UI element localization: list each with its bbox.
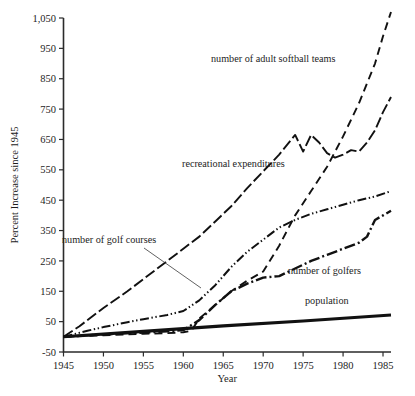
x-tick-label: 1955 (133, 360, 154, 371)
x-tick-label: 1970 (253, 360, 274, 371)
x-tick-label: 1965 (213, 360, 234, 371)
series-annotation-label: recreational expenditures (182, 158, 285, 169)
y-tick-label: 50 (46, 316, 57, 327)
x-tick-label: 1985 (373, 360, 394, 371)
series-line-population (64, 315, 392, 337)
y-tick-label: 1,050 (32, 13, 56, 24)
series-annotation-label: population (305, 295, 349, 306)
y-tick-label: -50 (42, 347, 56, 358)
y-tick-label: 650 (40, 134, 56, 145)
y-tick-label: 550 (40, 164, 56, 175)
y-tick-label: 350 (40, 225, 56, 236)
y-tick-label: 750 (40, 104, 56, 115)
series-annotation-label: number of golf courses (62, 234, 156, 245)
x-axis-ticks: 194519501955196019651970197519801985 (53, 352, 394, 371)
y-tick-label: 450 (40, 195, 56, 206)
y-tick-label: 950 (40, 43, 56, 54)
y-tick-label: 150 (40, 286, 56, 297)
series-annotation-label: number of adult softball teams (211, 53, 336, 64)
y-axis-ticks: -50501502503504505506507508509501,050 (32, 13, 63, 358)
line-chart-canvas: -50501502503504505506507508509501,050194… (0, 0, 415, 396)
series-annotation-label: number of golfers (288, 265, 361, 276)
annotations: number of adult softball teamsrecreation… (62, 53, 361, 306)
x-tick-label: 1960 (173, 360, 194, 371)
annotation-leader-line (144, 248, 201, 288)
x-tick-label: 1950 (93, 360, 114, 371)
chart-figure: -50501502503504505506507508509501,050194… (0, 0, 415, 396)
x-tick-label: 1945 (53, 360, 74, 371)
x-tick-label: 1975 (293, 360, 314, 371)
x-tick-label: 1980 (333, 360, 354, 371)
x-axis-title: Year (218, 373, 238, 384)
series-line-number-of-golf-courses (64, 191, 392, 337)
y-tick-label: 850 (40, 73, 56, 84)
y-axis-title: Percent Increase since 1945 (9, 127, 20, 244)
y-tick-label: 250 (40, 256, 56, 267)
